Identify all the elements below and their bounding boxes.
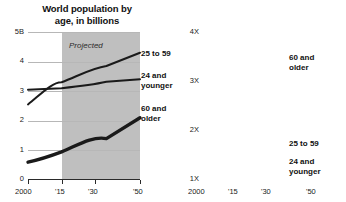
x-tick-left-2000 (28, 180, 29, 184)
series-label-left-24-and-younger: 24 and younger (141, 71, 173, 91)
x-tick-label-left-0: 2000 (15, 188, 32, 196)
x-tick-label-right-2: '30 (261, 188, 271, 196)
x-tick-label-left-3: '50 (133, 188, 143, 196)
y-tick-label-right-1: 3X (175, 77, 199, 85)
x-tick-label-left-1: '15 (55, 188, 65, 196)
y-tick-label-left-4: 1 (2, 146, 24, 154)
series-lines-left (28, 32, 140, 180)
series-label-right-60-and-older: 60 and older (289, 53, 314, 73)
x-axis-left (28, 179, 140, 181)
x-tick-left-30 (95, 180, 96, 184)
x-tick-label-right-3: '50 (306, 188, 316, 196)
y-tick-label-right-2: 2X (175, 126, 199, 134)
series-label-right-25-to-59: 25 to 59 (289, 139, 319, 149)
series-label-left-60-and-older: 60 and older (141, 104, 166, 124)
y-tick-label-right-0: 4X (175, 28, 199, 36)
two-panel-line-chart-figure: World population by age, in billions 5B … (0, 0, 346, 202)
x-tick-left-15 (62, 180, 63, 184)
line-25-to-59-left (28, 53, 140, 105)
y-tick-label-left-0: 5B (2, 28, 24, 36)
projected-label-left: Projected (69, 41, 103, 50)
line-24-and-younger-left (28, 79, 140, 89)
line-60-and-older-left (28, 118, 140, 162)
x-tick-label-left-2: '30 (88, 188, 98, 196)
chart-panel-world-population: World population by age, in billions 5B … (0, 0, 173, 202)
series-label-left-25-to-59: 25 to 59 (141, 49, 171, 59)
y-tick-label-right-3: 1X (175, 175, 199, 183)
plot-area-left: Projected (28, 32, 140, 180)
series-label-right-24-and-younger: 24 and younger (289, 157, 321, 177)
y-tick-label-left-3: 2 (2, 116, 24, 124)
chart-panel-increase-relative: Increase relative to 2000 4X 3X 2X 1X (173, 0, 346, 202)
y-tick-label-left-5: 0 (2, 175, 24, 183)
x-tick-label-right-1: '15 (228, 188, 238, 196)
chart-title-left: World population by age, in billions (14, 3, 160, 27)
y-tick-label-left-2: 3 (2, 87, 24, 95)
x-tick-left-50 (140, 180, 141, 184)
y-tick-label-left-1: 4 (2, 57, 24, 65)
x-tick-label-right-0: 2000 (188, 188, 205, 196)
